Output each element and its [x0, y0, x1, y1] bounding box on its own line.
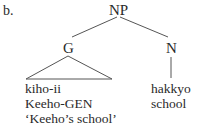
branch-np-g	[72, 17, 117, 37]
korean-form: kiho-ii	[25, 81, 61, 96]
node-n: N	[166, 41, 177, 56]
morpheme-gloss: Keeho-GEN	[25, 96, 92, 111]
roof-triangle	[26, 56, 112, 79]
node-np: NP	[109, 3, 128, 18]
branch-np-n	[120, 17, 168, 37]
korean-form: hakkyo	[151, 81, 191, 96]
node-g: G	[63, 41, 74, 56]
morpheme-gloss: school	[151, 96, 186, 111]
translation: ‘Keeho’s school’	[25, 111, 117, 126]
